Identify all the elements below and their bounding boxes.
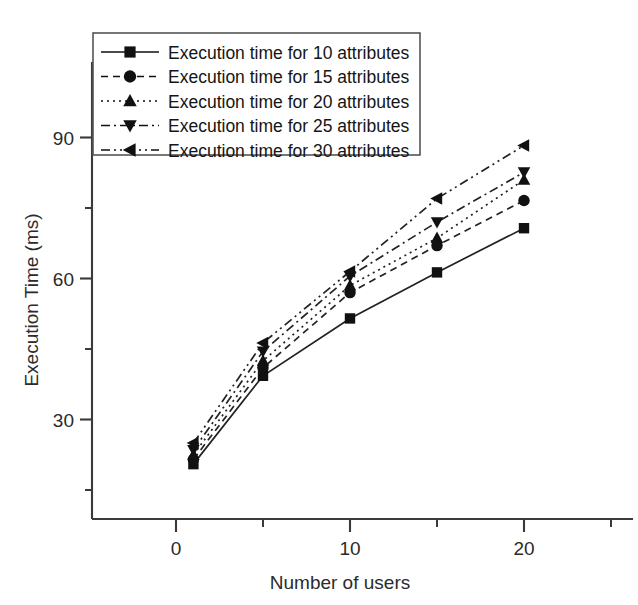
y-tick-label-90: 90 [53, 128, 74, 149]
chart-figure: 90 60 30 0 10 20 Number of users Executi… [0, 0, 638, 605]
y-tick-label-30: 30 [53, 410, 74, 431]
x-tick-label-0: 0 [171, 538, 182, 559]
legend-label-4: Execution time for 30 attributes [168, 141, 409, 161]
line-chart-canvas: 90 60 30 0 10 20 Number of users Executi… [0, 0, 638, 605]
legend-label-1: Execution time for 15 attributes [168, 67, 409, 87]
legend-marker-1 [124, 70, 136, 82]
x-tick-label-20: 20 [513, 538, 534, 559]
series-0-marker-2 [345, 313, 355, 323]
legend-marker-0 [124, 46, 135, 57]
x-axis [92, 519, 633, 532]
x-tick-label-10: 10 [339, 538, 360, 559]
series-0-marker-4 [519, 223, 529, 233]
y-axis-title: Execution Time (ms) [21, 213, 42, 386]
x-axis-title: Number of users [270, 572, 410, 593]
legend-label-2: Execution time for 20 attributes [168, 92, 409, 112]
legend-label-0: Execution time for 10 attributes [168, 43, 409, 63]
legend[interactable]: Execution time for 10 attributesExecutio… [93, 33, 420, 161]
legend-label-3: Execution time for 25 attributes [168, 116, 409, 136]
series-1-marker-4 [518, 195, 529, 206]
y-axis [80, 62, 92, 519]
series-0-marker-3 [432, 267, 442, 277]
y-tick-label-60: 60 [53, 269, 74, 290]
